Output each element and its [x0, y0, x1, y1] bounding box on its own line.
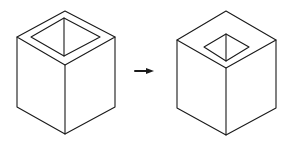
arrow-head-icon: [146, 68, 154, 74]
left-cube: [17, 11, 115, 134]
diagram-canvas: [0, 0, 288, 141]
right-cube: [177, 11, 276, 135]
arrow: [135, 68, 154, 74]
